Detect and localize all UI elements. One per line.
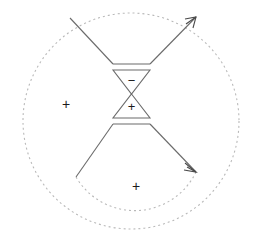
diagram-canvas: − + + +: [0, 0, 263, 251]
upper-cone-right-edge: [150, 17, 196, 64]
physics-diagram: − + + +: [0, 0, 263, 251]
lower-cone-right-edge: [150, 124, 196, 172]
outer-dashed-circle: [23, 13, 239, 229]
charge-label-left: +: [62, 96, 70, 112]
lower-cone-left-edge: [76, 124, 113, 177]
charge-label-bottom: +: [132, 178, 140, 194]
upper-cone-left-edge: [70, 18, 113, 64]
bowtie-lower-sign: +: [128, 99, 136, 114]
bowtie-upper-sign: −: [128, 73, 136, 88]
